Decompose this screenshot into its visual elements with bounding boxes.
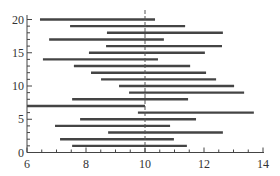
y-tick-label: 0 xyxy=(18,146,24,160)
y-tick-label: 15 xyxy=(12,46,24,60)
x-tick-label: 14 xyxy=(257,157,269,171)
y-tick-label: 10 xyxy=(12,79,24,93)
x-tick-label: 8 xyxy=(83,157,89,171)
interval-chart: 68101214 05101520 xyxy=(0,0,280,176)
x-tick-label: 12 xyxy=(198,157,210,171)
x-tick-label: 10 xyxy=(139,157,151,171)
x-tick-labels: 68101214 xyxy=(24,157,269,171)
y-tick-labels: 05101520 xyxy=(12,13,24,160)
y-tick-label: 5 xyxy=(18,112,24,126)
x-tick-label: 6 xyxy=(24,157,30,171)
y-tick-label: 20 xyxy=(12,13,24,27)
interval-lines xyxy=(27,20,254,146)
